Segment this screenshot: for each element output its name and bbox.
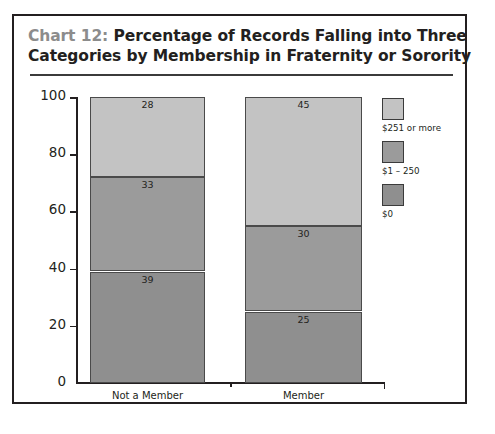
y-tick-20 [70,326,77,328]
y-axis-label-60: 60 [20,204,66,215]
y-tick-60 [70,211,77,213]
x-axis-label-not-a-member: Not a Member [90,390,205,402]
y-axis-label-0: 0 [20,376,66,387]
bar-segment-1-250[interactable]: 33 [90,177,205,271]
legend-swatch-icon [382,184,404,206]
chart-figure-frame: Chart 12: Percentage of Records Falling … [12,14,467,404]
x-axis-mid-tick [230,382,232,387]
y-axis-label-100: 100 [20,90,66,101]
bar-segment-value: 28 [91,100,204,110]
legend-item-1-250[interactable]: $1 – 250 [382,141,468,176]
legend-item-0[interactable]: $0 [382,184,468,219]
x-axis-end-tick [384,382,386,389]
bar-not-a-member[interactable]: 28 33 39 [90,97,205,383]
y-tick-40 [70,269,77,271]
legend-swatch-icon [382,98,404,120]
bar-segment-251-or-more[interactable]: 28 [90,97,205,177]
bar-segment-0[interactable]: 25 [245,312,362,384]
x-axis-label-member: Member [245,390,362,402]
y-axis-label-20: 20 [20,319,66,330]
bar-segment-251-or-more[interactable]: 45 [245,97,362,226]
bar-member[interactable]: 45 30 25 [245,97,362,383]
y-axis-line [76,97,78,383]
y-axis-label-80: 80 [20,147,66,158]
y-tick-80 [70,154,77,156]
bar-segment-value: 25 [246,315,361,325]
legend-swatch-icon [382,141,404,163]
plot-area: 100 80 60 40 20 0 28 33 39 Not a Member [14,16,469,406]
bar-segment-value: 33 [91,180,204,190]
bar-segment-1-250[interactable]: 30 [245,226,362,312]
bar-segment-value: 45 [246,100,361,110]
legend-item-251-or-more[interactable]: $251 or more [382,98,468,133]
legend-label: $251 or more [382,123,468,133]
legend-label: $1 – 250 [382,166,468,176]
y-axis-label-40: 40 [20,262,66,273]
y-tick-100 [70,97,77,99]
bar-segment-value: 30 [246,229,361,239]
legend-label: $0 [382,209,468,219]
bar-segment-value: 39 [91,275,204,285]
bar-segment-0[interactable]: 39 [90,272,205,384]
